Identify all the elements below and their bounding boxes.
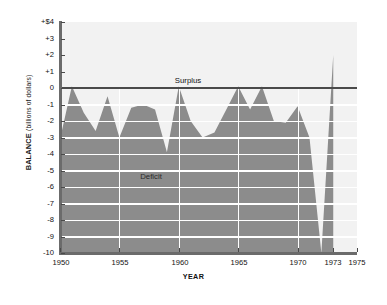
- x-tick-label: 1975: [349, 258, 366, 267]
- x-axis-tick-labels: 1950 1955 1960 1965 1970 1973 1975: [0, 0, 387, 305]
- x-axis-title: YEAR: [0, 272, 387, 281]
- x-tick-label: 1973: [325, 258, 342, 267]
- x-tick-label: 1970: [290, 258, 307, 267]
- x-tick-label: 1960: [172, 258, 189, 267]
- x-tick-label: 1965: [231, 258, 248, 267]
- x-tick-label: 1950: [53, 258, 70, 267]
- chart-figure: BALANCE (billions of dollars) +$4 +3 +2 …: [0, 0, 387, 305]
- x-tick-label: 1955: [112, 258, 129, 267]
